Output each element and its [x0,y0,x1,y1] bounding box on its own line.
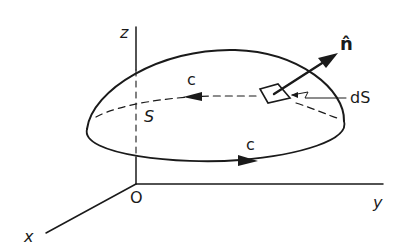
normal-label-n-hat: n̂ [340,35,353,53]
x-axis [46,184,136,233]
z-axis-label: z [120,25,128,41]
curve-label-c-top: c [187,72,196,88]
dome-outline [87,50,344,129]
ds-leader-arrowhead [291,92,298,98]
surface-element-label-ds: dS [350,90,370,106]
dashed-latitude-curve-right [296,103,340,119]
x-axis-label: x [24,229,33,245]
y-axis-label: y [373,195,382,211]
curve-c-arrow-bottom [238,155,258,166]
curve-c-arrow-top [183,92,202,101]
surface-label-s: S [144,109,154,125]
origin-label: O [130,190,143,206]
ds-leader-line [292,92,346,98]
boundary-curve-c [87,121,345,161]
dashed-latitude-curve [96,96,256,117]
curve-label-c-bottom: c [246,137,255,153]
normal-vector-shaft [274,58,330,94]
normal-arrowhead [318,53,338,68]
